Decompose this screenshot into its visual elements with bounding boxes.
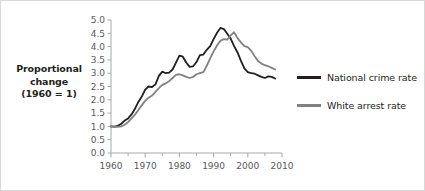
y-axis-tick-label: 4.0: [91, 42, 106, 52]
y-axis-tick-label: 4.5: [91, 29, 105, 39]
y-axis-tick-label: 3.5: [91, 55, 105, 65]
x-axis-tick-label: 1980: [168, 161, 191, 171]
legend-item-white-arrest-rate: White arrest rate: [297, 91, 423, 119]
y-axis-tick-label: 3.0: [91, 68, 106, 78]
y-axis-tick-label: 0.0: [91, 148, 106, 158]
legend-swatch-national-crime-rate: [297, 76, 321, 79]
y-axis-tick-label: 1.5: [91, 108, 105, 118]
x-axis-tick-label: 1970: [134, 161, 157, 171]
legend-swatch-white-arrest-rate: [297, 104, 321, 107]
y-axis-tick-label: 1.0: [91, 122, 106, 132]
chart-legend: National crime rate White arrest rate: [297, 63, 423, 119]
chart-figure: Proportional change (1960 = 1) 0.00.51.0…: [0, 0, 425, 191]
x-axis-tick-label: 1960: [100, 161, 123, 171]
series-line-white-arrest-rate: [111, 32, 275, 127]
y-axis-tick-label: 0.5: [91, 135, 105, 145]
x-axis-tick-label: 1990: [202, 161, 225, 171]
y-axis-tick-label: 2.0: [91, 95, 106, 105]
legend-label-national-crime-rate: National crime rate: [327, 72, 417, 83]
y-axis-tick-label: 2.5: [91, 82, 105, 92]
legend-item-national-crime-rate: National crime rate: [297, 63, 423, 91]
legend-label-white-arrest-rate: White arrest rate: [327, 100, 406, 111]
y-axis-tick-label: 5.0: [91, 15, 106, 25]
x-axis-tick-label: 2000: [236, 161, 259, 171]
x-axis-tick-label: 2010: [271, 161, 294, 171]
